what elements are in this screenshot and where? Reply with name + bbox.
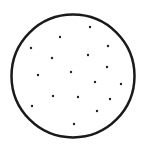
dot [87,54,89,56]
dot [30,47,32,49]
dot [51,57,53,59]
dot [109,98,111,100]
dot [70,71,72,73]
dot [120,83,122,85]
dot [31,105,33,107]
diagram-canvas [0,0,145,152]
dot [52,95,54,97]
dot [106,66,108,68]
dot [89,26,91,28]
dot-circle-diagram [0,0,145,152]
dot [96,110,98,112]
dot [59,36,61,38]
dot [77,96,79,98]
dot [37,74,39,76]
dot [94,81,96,83]
dot [73,123,75,125]
dot [107,45,109,47]
boundary-circle [12,15,135,138]
